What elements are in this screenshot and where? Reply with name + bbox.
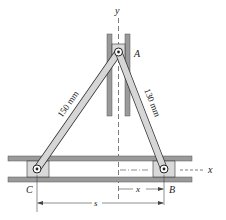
label-point-c: C	[26, 184, 33, 195]
dimension-x-arrow	[158, 187, 164, 191]
label-point-b: B	[169, 184, 175, 195]
dimension-s-arrow-right	[158, 201, 164, 205]
dimension-x-label: x	[135, 184, 140, 194]
rod-ca-fill	[37, 52, 119, 169]
pin-b	[160, 165, 168, 173]
horizontal-guide-bottom-rail	[8, 177, 192, 182]
mechanism-diagram: y A C B x 150 mm 130 mm x s	[0, 0, 226, 220]
label-y-axis: y	[114, 5, 120, 16]
dimension-s-arrow-left	[37, 201, 43, 205]
dimension-s-label: s	[94, 198, 98, 208]
pin-c	[33, 165, 41, 173]
vertical-guide-left-rail	[107, 34, 112, 116]
label-x-axis: x	[207, 164, 213, 175]
label-point-a: A	[133, 48, 141, 59]
pin-a	[115, 48, 123, 56]
